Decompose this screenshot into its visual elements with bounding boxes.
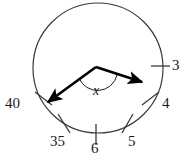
- tick-label-6: 6: [91, 141, 99, 156]
- dial-diagram-canvas: [0, 0, 188, 162]
- tick-label-40: 40: [5, 96, 20, 111]
- angle-label-x: x: [93, 84, 99, 98]
- hand-to-40: [48, 67, 96, 102]
- tick-label-5: 5: [128, 134, 136, 149]
- tick-label-3: 3: [172, 58, 180, 73]
- tick-label-35: 35: [50, 134, 65, 149]
- tick-mark-35: [58, 114, 70, 133]
- dial-diagram-figure: x 3 4 5 6 35 40: [0, 0, 188, 162]
- tick-mark-4: [142, 92, 159, 105]
- tick-label-4: 4: [162, 96, 170, 111]
- hand-to-4: [96, 67, 142, 82]
